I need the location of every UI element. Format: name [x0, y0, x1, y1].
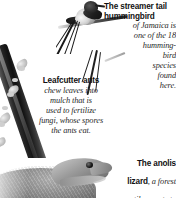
- hummingbird-body: [76, 8, 96, 25]
- caption-lizard-mixed-line: lizard, a forest: [118, 170, 176, 188]
- hummingbird-head: [84, 1, 98, 13]
- caption-body-line: bird: [104, 51, 176, 61]
- tail-streamer-feather: [66, 22, 80, 54]
- caption-body-line: of Jamaica is: [104, 21, 176, 31]
- caption-body-line: one of the 18: [104, 31, 176, 41]
- caption-body-line: the ants eat.: [22, 126, 120, 136]
- lizard-snout: [89, 160, 113, 176]
- leafcutter-ant: [7, 92, 14, 97]
- leafcutter-ant: [18, 66, 25, 71]
- caption-lead-line-1: The streamer tail: [104, 2, 167, 11]
- caption-body-line: used to fertilize: [22, 106, 120, 116]
- caption-body-line: chew leaves into: [22, 86, 120, 96]
- leafcutter-ant: [12, 78, 18, 82]
- caption-anolis-lizard: The anolis lizard, a forest reptile, rea…: [118, 152, 176, 198]
- caption-lead-line-2: hummingbird: [104, 12, 176, 22]
- caption-body-line: mulch that is: [22, 96, 120, 106]
- caption-body-line: reptile, reacts to: [123, 195, 176, 198]
- caption-lead-ants: Leafcutter ants: [22, 76, 120, 86]
- caption-lead-lizard-line-1: The anolis: [137, 159, 176, 168]
- caption-body-line: species: [104, 61, 176, 71]
- hummingbird-breast: [75, 13, 90, 25]
- caption-body-line: , a forest: [148, 177, 176, 186]
- anolis-lizard-photo: [0, 152, 122, 198]
- leafcutter-ant: [0, 122, 5, 127]
- caption-lead-lizard-line-2: lizard: [127, 177, 147, 186]
- lizard-eye: [86, 162, 93, 168]
- hummingbird-tail-base: [66, 16, 81, 24]
- hummingbird-wing: [82, 7, 103, 21]
- caption-body-ants: chew leaves into mulch that is used to f…: [22, 86, 120, 136]
- caption-lead-hummingbird: The streamer tail hummingbird: [104, 2, 176, 21]
- document-page: The streamer tail hummingbird of Jamaica…: [0, 0, 176, 198]
- leafcutter-ant: [2, 106, 8, 110]
- caption-body-line: humming-: [104, 41, 176, 51]
- photo-edge-fade: [0, 152, 28, 198]
- caption-leafcutter-ants: Leafcutter ants chew leaves into mulch t…: [22, 76, 120, 136]
- carried-leaf: [0, 136, 7, 147]
- caption-body-line: fungi, whose spores: [22, 116, 120, 126]
